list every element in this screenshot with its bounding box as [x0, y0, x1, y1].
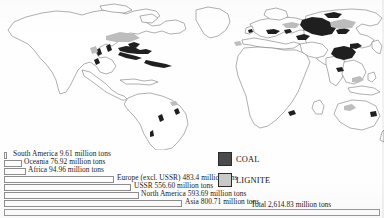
bar-oceania — [4, 160, 22, 167]
landmass-africa — [236, 47, 310, 128]
legend-item-lignite: LIGNITE — [218, 173, 270, 187]
bar-ussr — [4, 184, 131, 191]
coal-swatch-icon — [218, 152, 232, 166]
landmass-japan — [372, 40, 382, 54]
landmass-greenland — [196, 7, 230, 38]
landmass-philippines — [368, 72, 376, 82]
bar-europe — [4, 176, 114, 183]
world-map: .land { fill:#ffffff; stroke:#6e6e6e; st… — [0, 0, 384, 150]
landmass-madagascar — [312, 100, 324, 114]
bar-total — [4, 209, 380, 216]
bar-label-africa: Africa 94.96 million tons — [28, 166, 104, 174]
bar-africa — [4, 168, 26, 175]
world-map-svg: .land { fill:#ffffff; stroke:#6e6e6e; st… — [0, 0, 384, 150]
lignite-swatch-icon — [218, 173, 232, 187]
bar-asia — [4, 200, 182, 207]
bar-label-asia: Asia 800.71 million tons — [185, 198, 259, 206]
landmass-indonesia — [348, 86, 380, 95]
landmass-south-america — [124, 93, 188, 150]
landmass-central-america — [82, 70, 128, 100]
legend-item-coal: COAL — [218, 152, 260, 166]
landmass-caribbean — [120, 79, 158, 85]
legend-label-lignite: LIGNITE — [236, 176, 270, 185]
coal-production-figure: .land { fill:#ffffff; stroke:#6e6e6e; st… — [0, 0, 384, 218]
total-label: Total 2,614.83 million tons — [251, 201, 331, 209]
production-bar-chart: South America 9.61 million tons Oceania … — [0, 148, 384, 218]
bar-south-america — [4, 152, 7, 159]
legend-label-coal: COAL — [236, 155, 260, 164]
landmass-scandinavia — [264, 8, 288, 20]
bar-north-america — [4, 192, 139, 199]
